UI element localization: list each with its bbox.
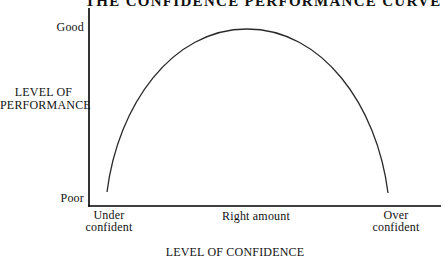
y-axis-title-line1: LEVEL OF — [0, 86, 87, 99]
confidence-performance-chart: THE CONFIDENCE PERFORMANCE CURVE Good Po… — [0, 0, 446, 259]
x-tick-label-right-amount: Right amount — [206, 211, 306, 223]
x-tick-label-under-confident: Under confident — [59, 210, 159, 233]
performance-curve — [107, 29, 388, 193]
x-tick-under-line2: confident — [59, 222, 159, 234]
x-tick-label-over-confident: Over confident — [346, 210, 446, 233]
y-axis-title: LEVEL OF PERFORMANCE — [0, 86, 87, 111]
y-tick-label-good: Good — [0, 21, 84, 33]
x-axis-title: LEVEL OF CONFIDENCE — [162, 246, 308, 258]
y-tick-label-poor: Poor — [0, 192, 84, 204]
x-tick-over-line2: confident — [346, 222, 446, 234]
x-tick-right-amount-line1: Right amount — [206, 211, 306, 223]
y-axis-title-line2: PERFORMANCE — [0, 99, 87, 112]
